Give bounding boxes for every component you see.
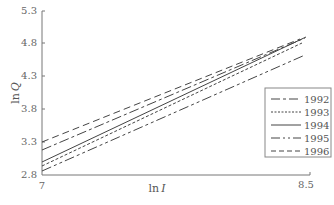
legend-label-1992: 1992 [304, 94, 329, 105]
y-axis-label-fn: ln [9, 93, 22, 104]
series-line-1996 [42, 39, 300, 142]
legend: 1992 1993 1994 1995 1996 [265, 88, 331, 157]
y-tick-label: 3.3 [21, 136, 37, 147]
legend-label-1995: 1995 [304, 133, 329, 144]
legend-label-1996: 1996 [304, 146, 329, 157]
legend-label-1994: 1994 [304, 120, 329, 131]
y-tick-label: 4.8 [21, 37, 37, 48]
x-tick-label: 8.5 [298, 179, 314, 190]
y-tick-label: 5.3 [21, 5, 37, 16]
x-tick-label: 7 [39, 180, 45, 191]
y-tick-label: 3.8 [21, 103, 37, 114]
y-axis-label: lnQ [9, 82, 22, 104]
legend-label-1993: 1993 [304, 107, 329, 118]
line-chart: 5.3 4.8 4.3 3.8 3.3 2.8 7 8.5 lnI lnQ 19… [0, 0, 334, 205]
y-axis-label-var: Q [9, 82, 22, 91]
x-axis-label-var: I [160, 182, 166, 195]
x-axis-label: lnI [149, 182, 167, 195]
x-axis-label-fn: ln [149, 182, 160, 195]
y-tick-label: 2.8 [21, 169, 37, 180]
series-line-1993 [42, 43, 302, 166]
y-tick-label: 4.3 [21, 70, 37, 81]
